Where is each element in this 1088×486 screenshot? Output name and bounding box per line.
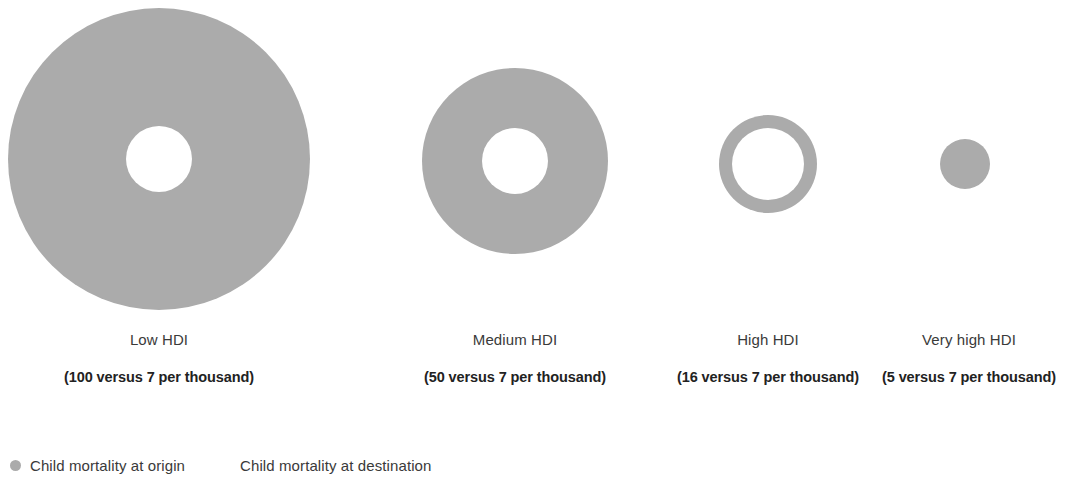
category-label-medium-hdi: Medium HDI <box>365 331 665 349</box>
bubble-group-very-high-hdi <box>940 139 990 189</box>
origin-bubble-very-high-hdi <box>940 139 990 189</box>
bubble-group-low-hdi <box>8 8 310 310</box>
group-label-high-hdi: High HDI (16 versus 7 per thousand) <box>653 331 883 386</box>
legend-item-origin[interactable]: Child mortality at origin <box>10 455 185 475</box>
group-label-very-high-hdi: Very high HDI (5 versus 7 per thousand) <box>858 331 1080 386</box>
legend-label-destination: Child mortality at destination <box>240 457 431 474</box>
circle-marker-icon-destination <box>220 460 231 471</box>
category-label-high-hdi: High HDI <box>653 331 883 349</box>
bubble-group-high-hdi <box>719 115 817 213</box>
legend-item-destination[interactable]: Child mortality at destination <box>220 455 431 475</box>
category-label-very-high-hdi: Very high HDI <box>858 331 1080 349</box>
destination-bubble-low-hdi <box>126 126 192 192</box>
destination-bubble-medium-hdi <box>482 128 548 194</box>
category-label-low-hdi: Low HDI <box>9 331 309 349</box>
group-label-medium-hdi: Medium HDI (50 versus 7 per thousand) <box>365 331 665 386</box>
group-label-low-hdi: Low HDI (100 versus 7 per thousand) <box>9 331 309 386</box>
circle-marker-icon-origin <box>10 460 21 471</box>
destination-bubble-high-hdi <box>732 128 804 200</box>
legend-label-origin: Child mortality at origin <box>30 457 185 474</box>
values-label-high-hdi: (16 versus 7 per thousand) <box>653 368 883 386</box>
values-label-medium-hdi: (50 versus 7 per thousand) <box>365 368 665 386</box>
bubble-group-medium-hdi <box>422 68 608 254</box>
values-label-low-hdi: (100 versus 7 per thousand) <box>9 368 309 386</box>
bubble-chart-canvas: Low HDI (100 versus 7 per thousand) Medi… <box>0 0 1088 486</box>
chart-legend: Child mortality at origin Child mortalit… <box>10 455 432 475</box>
values-label-very-high-hdi: (5 versus 7 per thousand) <box>858 368 1080 386</box>
